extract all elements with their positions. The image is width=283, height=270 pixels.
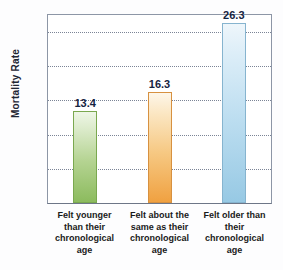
- category-line: age: [198, 245, 271, 257]
- plot-area: 25 20 15 10 5 0 13.4 16.3 26.3: [47, 14, 272, 204]
- category-line: same as their: [123, 222, 196, 234]
- bar-felt-older[interactable]: [222, 23, 246, 203]
- category-line: age: [48, 245, 121, 257]
- category-line: Felt younger: [48, 210, 121, 222]
- category-line: age: [123, 245, 196, 257]
- bar-value-label-2: 26.3: [204, 9, 264, 21]
- category-line: their: [198, 222, 271, 234]
- bar-value-label-1: 16.3: [130, 78, 190, 90]
- category-label-felt-younger: Felt younger than their chronological ag…: [47, 210, 122, 268]
- bar-felt-younger[interactable]: [73, 111, 97, 203]
- bar-felt-same[interactable]: [148, 92, 172, 203]
- category-line: chronological: [198, 233, 271, 245]
- y-axis-title: Mortality Rate: [10, 29, 21, 139]
- category-line: Felt older than: [198, 210, 271, 222]
- category-label-felt-older: Felt older than their chronological age: [197, 210, 272, 268]
- mortality-rate-bar-chart: Mortality Rate 25 20 15 10 5 0 13.4 16.3…: [0, 0, 283, 270]
- category-line: chronological: [48, 233, 121, 245]
- gridline-0: 0: [48, 203, 271, 204]
- category-label-felt-same: Felt about the same as their chronologic…: [122, 210, 197, 268]
- category-line: chronological: [123, 233, 196, 245]
- category-line: than their: [48, 222, 121, 234]
- bar-value-label-0: 13.4: [55, 97, 115, 109]
- category-labels: Felt younger than their chronological ag…: [47, 210, 272, 268]
- category-line: Felt about the: [123, 210, 196, 222]
